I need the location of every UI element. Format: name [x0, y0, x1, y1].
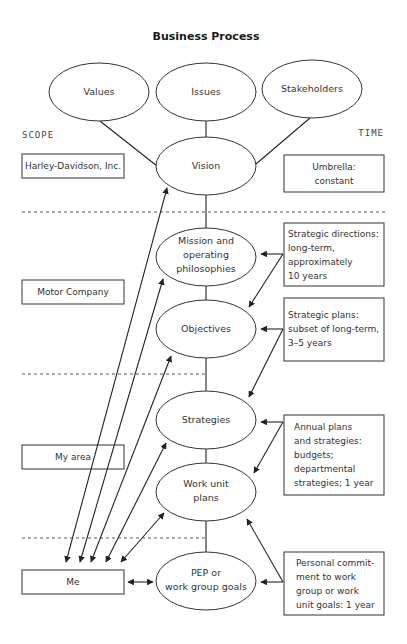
- ellipse-stakeholders: Stakeholders: [262, 60, 362, 118]
- ellipse-strategies: Strategies: [156, 391, 256, 449]
- svg-text:long-term,: long-term,: [288, 243, 335, 253]
- svg-text:Annual plans: Annual plans: [294, 422, 353, 432]
- business-process-diagram: Business Process Values Issues Stakehold…: [0, 0, 407, 644]
- svg-text:subset of long-term,: subset of long-term,: [288, 324, 379, 334]
- svg-text:Personal commit-: Personal commit-: [296, 558, 374, 568]
- time-box-umbrella: Umbrella: constant: [284, 155, 384, 192]
- svg-text:constant: constant: [314, 176, 354, 186]
- time-box-strategic-directions: Strategic directions: long-term, approxi…: [284, 223, 384, 286]
- ellipse-values: Values: [49, 63, 149, 121]
- ellipse-vision: Vision: [156, 137, 256, 195]
- svg-text:operating: operating: [183, 249, 229, 260]
- svg-text:Harley-Davidson, Inc.: Harley-Davidson, Inc.: [25, 161, 121, 171]
- svg-text:3–5 years: 3–5 years: [288, 338, 332, 348]
- scope-arrows: [66, 188, 171, 582]
- svg-text:work group goals: work group goals: [165, 581, 247, 592]
- svg-text:group or work: group or work: [296, 586, 360, 596]
- svg-text:Work unit: Work unit: [183, 478, 229, 489]
- scope-box-motor-company: Motor Company: [22, 280, 124, 304]
- svg-text:philosophies: philosophies: [176, 263, 235, 274]
- svg-text:Strategic plans:: Strategic plans:: [288, 310, 359, 320]
- svg-text:and strategies:: and strategies:: [294, 436, 362, 446]
- time-box-personal-commitment: Personal commit- ment to work group or w…: [284, 552, 384, 615]
- ellipse-issues: Issues: [156, 63, 256, 121]
- svg-text:plans: plans: [193, 492, 219, 503]
- time-box-annual-plans: Annual plans and strategies: budgets; de…: [284, 415, 384, 495]
- time-label: TIME: [358, 128, 384, 138]
- ellipse-objectives: Objectives: [156, 300, 256, 358]
- scope-label: SCOPE: [22, 130, 54, 140]
- ellipse-work-unit-plans: Work unit plans: [156, 463, 256, 521]
- svg-text:Vision: Vision: [192, 160, 220, 171]
- svg-text:Objectives: Objectives: [181, 323, 231, 334]
- time-box-strategic-plans: Strategic plans: subset of long-term, 3–…: [284, 298, 384, 361]
- svg-text:Strategies: Strategies: [182, 414, 231, 425]
- svg-text:budgets;: budgets;: [294, 450, 334, 460]
- svg-text:Stakeholders: Stakeholders: [281, 83, 343, 94]
- svg-text:departmental: departmental: [294, 464, 355, 474]
- svg-text:PEP or: PEP or: [191, 567, 221, 578]
- svg-text:Issues: Issues: [191, 86, 221, 97]
- svg-text:Strategic directions:: Strategic directions:: [288, 229, 379, 239]
- svg-text:unit goals: 1 year: unit goals: 1 year: [296, 600, 375, 610]
- scope-box-harley-davidson: Harley-Davidson, Inc.: [22, 154, 124, 178]
- scope-box-me: Me: [22, 570, 124, 594]
- svg-text:Motor Company: Motor Company: [37, 287, 109, 297]
- svg-text:10 years: 10 years: [288, 271, 327, 281]
- svg-text:Mission and: Mission and: [178, 235, 234, 246]
- svg-text:ment to work: ment to work: [296, 572, 357, 582]
- svg-text:Umbrella:: Umbrella:: [312, 162, 356, 172]
- diagram-title: Business Process: [153, 30, 260, 43]
- svg-text:My area: My area: [55, 452, 91, 462]
- svg-text:Values: Values: [83, 86, 114, 97]
- svg-text:approximately: approximately: [288, 257, 353, 267]
- svg-text:strategies; 1 year: strategies; 1 year: [294, 478, 374, 488]
- ellipse-pep: PEP or work group goals: [156, 552, 256, 610]
- ellipse-mission: Mission and operating philosophies: [156, 228, 256, 286]
- svg-text:Me: Me: [66, 577, 80, 587]
